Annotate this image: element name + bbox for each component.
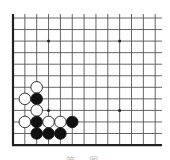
white-stone: [31, 105, 43, 117]
white-stone: [43, 116, 55, 128]
hoshi-point: [47, 109, 50, 112]
diagram-caption: 第 图: [0, 154, 170, 160]
hoshi-point: [118, 40, 121, 43]
hoshi-point: [118, 109, 121, 112]
white-stone: [55, 116, 67, 128]
white-stone: [19, 116, 31, 128]
black-stone: [31, 128, 43, 140]
black-stone: [31, 93, 43, 105]
black-stone: [43, 128, 55, 140]
white-stone: [19, 93, 31, 105]
black-stone: [31, 116, 43, 128]
black-stone: [66, 116, 78, 128]
white-stone: [31, 82, 43, 94]
hoshi-point: [47, 40, 50, 43]
go-board: [0, 0, 170, 160]
black-stone: [55, 128, 67, 140]
